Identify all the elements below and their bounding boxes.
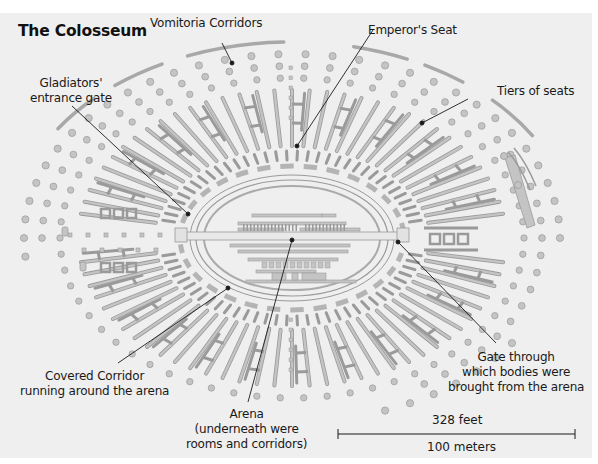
label-covered-corridor: Covered Corridor running around the aren… [20, 369, 169, 399]
label-arena: Arena (underneath were rooms and corrido… [186, 407, 307, 452]
label-emperors-seat: Emperor's Seat [368, 23, 457, 38]
scale-bar [338, 429, 575, 439]
label-gladiators-entrance: Gladiators' entrance gate [30, 76, 112, 106]
scale-meters: 100 meters [427, 440, 496, 454]
label-vomitoria-corridors: Vomitoria Corridors [150, 16, 262, 31]
diagram-title: The Colosseum [18, 22, 147, 40]
scale-feet: 328 feet [432, 413, 482, 427]
label-gate-bodies: Gate through which bodies were brought f… [448, 350, 584, 395]
label-tiers-of-seats: Tiers of seats [497, 84, 574, 99]
